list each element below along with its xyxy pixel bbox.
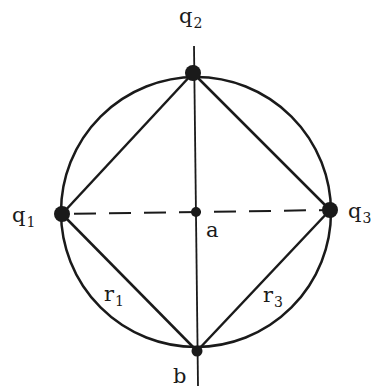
- geometry-diagram: [0, 0, 390, 391]
- label-a: a: [206, 220, 219, 241]
- node-b: [192, 346, 203, 357]
- label-q1: q1: [12, 205, 35, 226]
- node-q3: [322, 202, 338, 218]
- label-b: b: [173, 366, 186, 387]
- label-r1: r1: [104, 284, 124, 305]
- node-q1: [54, 206, 70, 222]
- label-q2: q2: [179, 6, 202, 27]
- label-r3: r3: [263, 285, 283, 306]
- node-q2: [185, 65, 201, 81]
- edge-q1-q2: [62, 73, 193, 214]
- label-q3: q3: [348, 201, 371, 222]
- node-a: [191, 207, 201, 217]
